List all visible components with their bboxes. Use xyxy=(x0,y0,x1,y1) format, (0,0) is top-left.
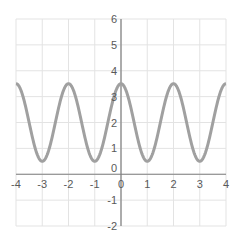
y-tick-label: 5 xyxy=(111,39,117,51)
x-tick-label: -3 xyxy=(37,178,47,190)
x-axis-tick-labels: -4-3-2-101234 xyxy=(11,178,229,190)
y-tick-label: -2 xyxy=(107,220,117,232)
x-tick-label: 2 xyxy=(170,178,176,190)
x-tick-label: -4 xyxy=(11,178,21,190)
y-tick-label: -1 xyxy=(107,194,117,206)
x-tick-label: -2 xyxy=(64,178,74,190)
chart: -4-3-2-101234 -2-10123456 xyxy=(0,0,238,240)
x-tick-label: -1 xyxy=(90,178,100,190)
y-tick-label: 3 xyxy=(111,91,117,103)
y-tick-label: 6 xyxy=(111,13,117,25)
y-tick-label: 0 xyxy=(111,162,117,174)
x-tick-label: 0 xyxy=(118,178,124,190)
x-tick-label: 1 xyxy=(144,178,150,190)
y-tick-label: 4 xyxy=(111,65,117,77)
x-tick-label: 3 xyxy=(197,178,203,190)
y-tick-label: 2 xyxy=(111,117,117,129)
y-tick-label: 1 xyxy=(111,142,117,154)
x-tick-label: 4 xyxy=(223,178,229,190)
